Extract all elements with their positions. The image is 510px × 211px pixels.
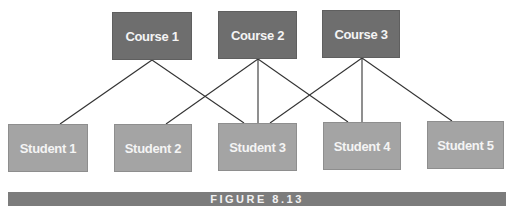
student-3-label: Student 3 — [229, 140, 286, 155]
edge-course-3-to-student-3 — [270, 58, 362, 123]
figure-label-bar: FIGURE 8.13 — [8, 192, 506, 206]
course-1-node: Course 1 — [112, 12, 192, 60]
edge-course-2-to-student-4 — [258, 59, 348, 122]
course-3-label: Course 3 — [334, 27, 387, 42]
student-4-label: Student 4 — [334, 139, 391, 154]
figure-number: FIGURE 8.13 — [210, 193, 304, 205]
course-3-node: Course 3 — [322, 10, 400, 58]
student-1-label: Student 1 — [20, 141, 77, 156]
student-5-label: Student 5 — [437, 138, 494, 153]
student-1-node: Student 1 — [8, 124, 88, 172]
student-2-label: Student 2 — [125, 141, 182, 156]
edge-course-3-to-student-5 — [362, 58, 452, 121]
course-2-label: Course 2 — [231, 28, 284, 43]
student-5-node: Student 5 — [427, 121, 504, 169]
student-4-node: Student 4 — [323, 122, 401, 170]
edge-course-1-to-student-1 — [60, 60, 152, 124]
student-2-node: Student 2 — [114, 124, 192, 172]
student-3-node: Student 3 — [218, 123, 297, 171]
edge-course-2-to-student-2 — [166, 59, 258, 124]
course-1-label: Course 1 — [125, 29, 178, 44]
edge-course-1-to-student-3 — [152, 60, 244, 123]
course-2-node: Course 2 — [218, 11, 297, 59]
